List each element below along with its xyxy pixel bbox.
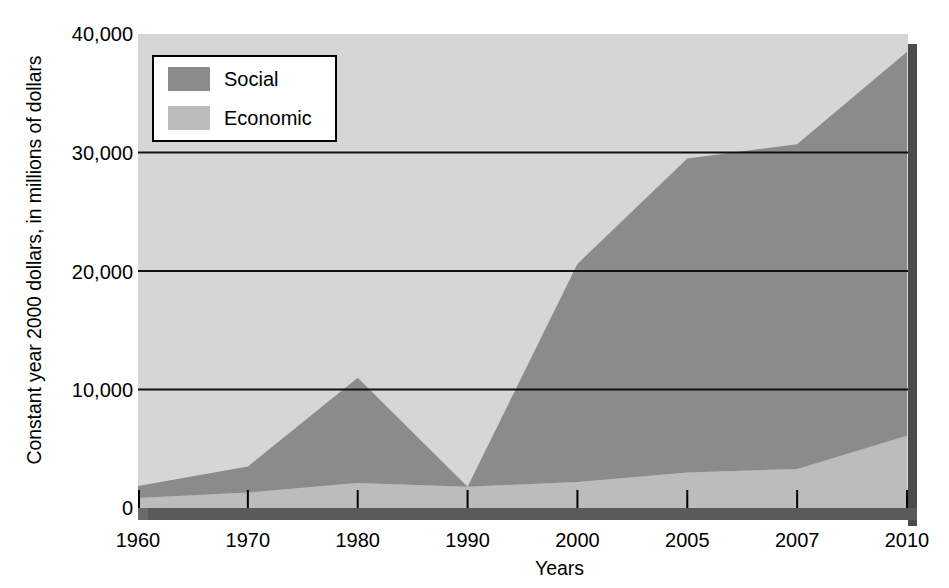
legend-swatch-economic bbox=[168, 106, 210, 130]
y-axis-tick-labels: 40,000 30,000 20,000 10,000 0 bbox=[5, 0, 133, 588]
y-tick-0: 0 bbox=[13, 498, 133, 518]
x-axis-title: Years bbox=[0, 556, 949, 580]
chart-figure: Constant year 2000 dollars, in millions … bbox=[0, 0, 949, 588]
legend-label-economic: Economic bbox=[224, 106, 312, 130]
x-axis-title-text: Years bbox=[535, 557, 584, 579]
y-tick-40000: 40,000 bbox=[13, 24, 133, 44]
y-tick-10000: 10,000 bbox=[13, 380, 133, 400]
y-tick-20000: 20,000 bbox=[13, 262, 133, 282]
x-tick-label-1990: 1990 bbox=[408, 528, 528, 552]
legend-label-social: Social bbox=[224, 67, 278, 91]
plot-area: Social Economic bbox=[138, 34, 908, 508]
plot-3d-bottom-face bbox=[138, 508, 917, 520]
plot-area-wrapper: Social Economic bbox=[138, 34, 916, 526]
x-tick-label-1960: 1960 bbox=[78, 528, 198, 552]
x-tick-label-2000: 2000 bbox=[517, 528, 637, 552]
legend-item-economic: Economic bbox=[168, 105, 312, 131]
x-tick-label-1980: 1980 bbox=[298, 528, 418, 552]
legend-item-social: Social bbox=[168, 66, 278, 92]
x-tick-label-2005: 2005 bbox=[627, 528, 747, 552]
x-tick-label-1970: 1970 bbox=[188, 528, 308, 552]
y-tick-30000: 30,000 bbox=[13, 143, 133, 163]
legend-swatch-social bbox=[168, 67, 210, 91]
chart-legend: Social Economic bbox=[152, 55, 337, 142]
plot-3d-corner-face bbox=[138, 508, 148, 520]
x-tick-label-2007: 2007 bbox=[737, 528, 857, 552]
plot-3d-right-face bbox=[908, 44, 917, 526]
x-tick-label-2010: 2010 bbox=[847, 528, 949, 552]
